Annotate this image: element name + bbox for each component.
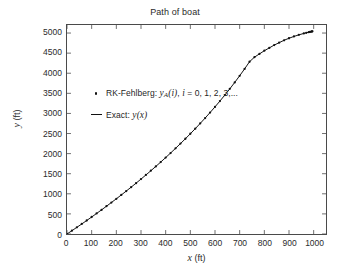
legend-label-exact: Exact: y(x) <box>106 110 147 120</box>
y-tick-label: 1000 <box>43 189 62 199</box>
y-tick-label: 1500 <box>43 169 62 179</box>
x-tick-label: 900 <box>283 238 297 248</box>
legend-rkf-prefix: RK-Fehlberg: <box>106 88 160 98</box>
y-tick-label: 0 <box>57 230 62 240</box>
x-tick-label: 700 <box>233 238 247 248</box>
y-tick-label: 3500 <box>43 88 62 98</box>
legend-rkf-argument: (i) <box>168 88 177 98</box>
legend-label-rk-fehlberg: RK-Fehlberg: yA(i), i = 0, 1, 2, 3,... <box>106 88 238 99</box>
y-tick-label: 4000 <box>43 68 62 78</box>
legend-item-exact: Exact: y(x) <box>86 104 276 125</box>
x-tick-label: 300 <box>134 238 148 248</box>
y-axis-label: y (ft) <box>11 89 22 149</box>
legend-rkf-index-values: = 0, 1, 2, 3,... <box>185 88 238 98</box>
x-tick-label: 400 <box>158 238 172 248</box>
legend-dot-marker-icon <box>86 92 106 95</box>
legend-exact-argument: (x) <box>137 110 148 120</box>
plot-area <box>66 24 327 235</box>
x-axis-tick-labels: 01002003004005006007008009001000 <box>66 238 327 252</box>
y-axis-tick-marks <box>67 33 326 234</box>
y-tick-label: 2500 <box>43 129 62 139</box>
legend-line-marker-icon <box>86 114 106 115</box>
plot-svg <box>67 25 326 234</box>
x-axis-tick-marks <box>67 25 314 234</box>
chart-title: Path of boat <box>0 7 350 17</box>
rk-fehlberg-data-points <box>67 30 314 234</box>
y-tick-label: 500 <box>48 210 62 220</box>
y-axis-label-unit: (ft) <box>12 110 22 121</box>
y-tick-label: 2000 <box>43 149 62 159</box>
y-axis-label-variable: y <box>11 123 22 127</box>
chart-legend: RK-Fehlberg: yA(i), i = 0, 1, 2, 3,... E… <box>86 83 276 125</box>
x-tick-label: 600 <box>208 238 222 248</box>
y-tick-label: 3000 <box>43 108 62 118</box>
x-tick-label: 1000 <box>305 238 324 248</box>
x-tick-label: 0 <box>64 238 69 248</box>
x-axis-label: x (ft) <box>66 252 327 263</box>
y-tick-label: 4500 <box>43 47 62 57</box>
y-tick-label: 5000 <box>43 27 62 37</box>
x-tick-label: 100 <box>84 238 98 248</box>
x-axis-label-unit: (ft) <box>194 253 205 263</box>
legend-item-rk-fehlberg: RK-Fehlberg: yA(i), i = 0, 1, 2, 3,... <box>86 83 276 104</box>
exact-curve-line <box>67 31 312 234</box>
chart-figure: Path of boat 050010001500200025003000350… <box>0 0 350 278</box>
legend-exact-prefix: Exact: <box>106 110 132 120</box>
y-axis-tick-labels: 0500100015002000250030003500400045005000 <box>26 24 62 235</box>
x-axis-label-variable: x <box>188 252 192 263</box>
x-tick-label: 800 <box>258 238 272 248</box>
x-tick-label: 200 <box>109 238 123 248</box>
x-tick-label: 500 <box>183 238 197 248</box>
